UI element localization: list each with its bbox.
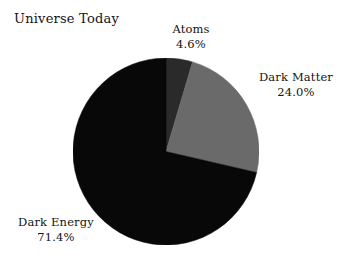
pie-label-dark-energy-name: Dark Energy [4, 215, 108, 230]
pie-label-dark-energy-value: 71.4% [4, 230, 108, 245]
pie-label-atoms-name: Atoms [148, 22, 234, 37]
pie-chart-figure: Universe Today Atoms 4.6% Dark Matter 24… [0, 0, 348, 270]
pie-label-dark-matter-name: Dark Matter [248, 70, 344, 85]
pie-label-dark-matter-value: 24.0% [248, 85, 344, 100]
pie-label-atoms-value: 4.6% [148, 37, 234, 52]
chart-title: Universe Today [14, 11, 119, 26]
pie-label-atoms: Atoms 4.6% [148, 22, 234, 51]
pie-label-dark-matter: Dark Matter 24.0% [248, 70, 344, 99]
pie-label-dark-energy: Dark Energy 71.4% [4, 215, 108, 244]
